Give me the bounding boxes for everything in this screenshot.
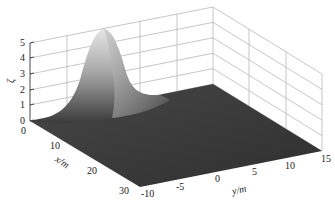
z-tick-1: 1	[20, 99, 25, 110]
z-tick-5: 5	[20, 37, 25, 48]
y-axis-label: y/m	[230, 183, 247, 197]
x-tick-20: 20	[87, 165, 97, 176]
y-tick-10: 10	[285, 160, 295, 171]
z-tick-3: 3	[20, 68, 25, 79]
surface-plot: 0 1 2 3 4 5 ζ 0 10 20 30 x/m -10 -5 0 5 …	[0, 0, 335, 203]
x-axis-label: x/m	[53, 153, 72, 171]
z-tick-2: 2	[20, 84, 25, 95]
z-axis: 0 1 2 3 4 5 ζ	[5, 37, 34, 126]
y-tick-0: 0	[215, 173, 220, 184]
z-tick-4: 4	[20, 52, 25, 63]
x-tick-10: 10	[50, 140, 60, 151]
y-tick-neg5: -5	[176, 181, 184, 192]
x-tick-30: 30	[119, 185, 129, 196]
y-tick-neg10: -10	[141, 188, 154, 199]
x-tick-0: 0	[21, 125, 26, 136]
y-tick-5: 5	[252, 166, 257, 177]
y-tick-15: 15	[321, 153, 331, 164]
z-axis-label: ζ	[5, 78, 17, 83]
